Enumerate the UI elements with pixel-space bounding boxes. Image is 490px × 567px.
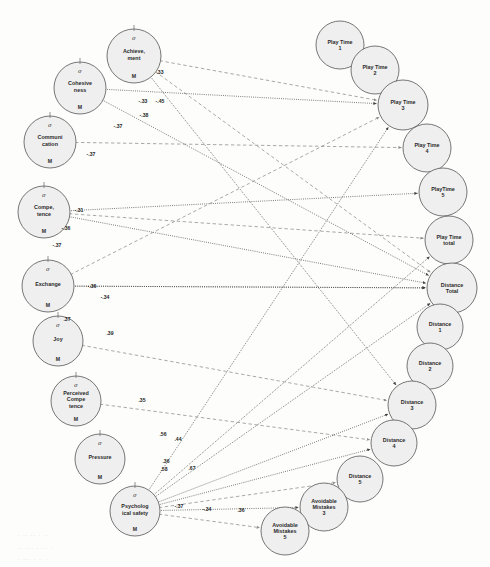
mean-marker: M bbox=[42, 228, 46, 234]
edge-weight-label: .35 bbox=[138, 397, 145, 403]
node-perceived_competence[interactable]: σPerceivedCompetenceM bbox=[51, 372, 101, 426]
node-label: Pressure bbox=[88, 454, 111, 460]
node-cohesiveness[interactable]: σCohesivenessM bbox=[54, 58, 106, 114]
node-label: ical safety bbox=[122, 510, 148, 516]
node-label: Perceived bbox=[63, 390, 88, 396]
edge-weight-label: -.37 bbox=[175, 503, 184, 509]
node-label: Compe, bbox=[34, 204, 54, 210]
node-play_time_3[interactable]: Play Time3 bbox=[378, 80, 428, 130]
edge-weight-label: .39 bbox=[106, 330, 113, 336]
edge-weight-label: .44 bbox=[174, 436, 181, 442]
node-label: 5 bbox=[359, 479, 362, 485]
edge-weight-label: -.33 bbox=[139, 98, 148, 104]
node-label: Mistakes bbox=[274, 528, 297, 534]
node-label: Play Time bbox=[362, 64, 387, 70]
mean-marker: M bbox=[48, 158, 52, 164]
sigma-icon: σ bbox=[78, 68, 82, 74]
node-label: Avoidable bbox=[311, 498, 337, 504]
node-label: Joy bbox=[53, 336, 62, 342]
node-label: Compe bbox=[67, 396, 85, 402]
path-edge bbox=[148, 127, 388, 491]
path-edge bbox=[70, 117, 379, 275]
node-label: Avoidable bbox=[272, 522, 298, 528]
node-label: PlayTime bbox=[431, 186, 455, 192]
node-play_time_5[interactable]: PlayTime5 bbox=[419, 168, 467, 216]
node-label: Distance bbox=[401, 399, 423, 405]
edge-weight-label: .33 bbox=[156, 69, 163, 75]
sigma-icon: σ bbox=[132, 35, 136, 41]
edge-weight-label: -.31 bbox=[75, 207, 84, 213]
node-label: Cohesive bbox=[68, 80, 92, 86]
node-label: 3 bbox=[402, 105, 405, 111]
edge-weight-label: .67 bbox=[188, 465, 195, 471]
node-label: total bbox=[443, 240, 455, 246]
node-label: ness bbox=[74, 87, 86, 93]
mean-marker: M bbox=[78, 104, 82, 110]
node-distance_1[interactable]: Distance1 bbox=[417, 304, 463, 350]
edge-weight-label: .36 bbox=[162, 458, 169, 464]
path-edge bbox=[82, 345, 387, 400]
node-label: Distance bbox=[441, 282, 463, 288]
edge-weight-label: -.37 bbox=[114, 123, 123, 129]
node-label: Play Time bbox=[327, 39, 352, 45]
node-label: cation bbox=[42, 141, 58, 147]
path-edge bbox=[69, 193, 418, 210]
node-label: Play Time bbox=[390, 99, 415, 105]
edge-weight-label: .37 bbox=[63, 316, 70, 322]
node-label: 5 bbox=[284, 534, 287, 540]
node-label: 4 bbox=[393, 443, 396, 449]
node-label: Play Time bbox=[436, 234, 461, 240]
mean-marker: M bbox=[98, 474, 102, 480]
path-edge bbox=[75, 142, 402, 147]
path-edge bbox=[150, 76, 396, 385]
node-pressure[interactable]: σPressureM bbox=[75, 430, 125, 484]
node-joy[interactable]: σJoyM bbox=[33, 312, 83, 366]
node-psych_safety[interactable]: σPsychological safetyM bbox=[110, 482, 160, 536]
node-label: Achieve, bbox=[123, 48, 146, 54]
node-label: Total bbox=[446, 288, 459, 294]
edge-weight-label: .58 bbox=[160, 466, 167, 472]
node-label: 3 bbox=[323, 510, 326, 516]
path-diagram-canvas: σAchieve,mentMσCohesivenessMσCommunicati… bbox=[0, 0, 490, 567]
mean-marker: M bbox=[56, 356, 60, 362]
node-exchange[interactable]: σExchangeM bbox=[22, 256, 74, 312]
path-edge bbox=[100, 404, 370, 440]
node-play_time_4[interactable]: Play Time4 bbox=[403, 124, 451, 172]
node-label: tence bbox=[37, 211, 51, 217]
mean-marker: M bbox=[132, 73, 136, 79]
node-label: 3 bbox=[411, 405, 414, 411]
edge-weight-label: -.36 bbox=[62, 225, 71, 231]
sigma-icon: σ bbox=[42, 192, 46, 198]
node-label: 1 bbox=[339, 45, 342, 51]
sigma-icon: σ bbox=[98, 440, 102, 446]
path-edge bbox=[159, 514, 260, 527]
edge-weight-label: -.38 bbox=[140, 112, 149, 118]
node-avoidable_mistakes_5[interactable]: AvoidableMistakes5 bbox=[261, 507, 309, 555]
node-communication[interactable]: σCommunicationM bbox=[24, 112, 76, 168]
node-label: Play Time bbox=[414, 142, 439, 148]
node-label: Distance bbox=[349, 473, 371, 479]
sigma-icon: σ bbox=[46, 266, 50, 272]
mean-marker: M bbox=[46, 302, 50, 308]
node-label: tence bbox=[69, 403, 83, 409]
node-label: Psycholog bbox=[121, 503, 148, 509]
edge-weight-label: -.34 bbox=[101, 294, 110, 300]
edge-weight-label: -.37 bbox=[87, 151, 96, 157]
node-label: ment bbox=[128, 55, 141, 61]
path-edge bbox=[69, 217, 426, 284]
path-edge bbox=[69, 214, 424, 239]
node-label: 5 bbox=[442, 192, 445, 198]
node-label: 1 bbox=[439, 327, 442, 333]
node-label: Distance bbox=[419, 360, 441, 366]
edge-weight-label: -.36 bbox=[88, 283, 97, 289]
edge-weight-label: .56 bbox=[159, 431, 166, 437]
node-label: 4 bbox=[426, 148, 429, 154]
mean-marker: M bbox=[74, 416, 78, 422]
node-achievement[interactable]: σAchieve,mentM bbox=[107, 25, 161, 83]
node-play_time_total[interactable]: Play Timetotal bbox=[425, 216, 473, 264]
node-distance_4[interactable]: Distance4 bbox=[371, 420, 417, 466]
edge-weight-label: -.45 bbox=[156, 98, 165, 104]
node-label: 2 bbox=[374, 70, 377, 76]
node-label: Distance bbox=[429, 321, 451, 327]
path-edge bbox=[73, 286, 426, 288]
